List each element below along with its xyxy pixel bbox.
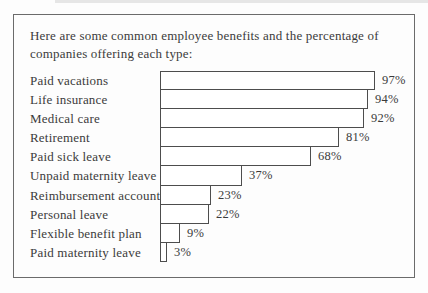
chart-row: Reimbursement accounts 23%	[14, 186, 414, 205]
bar	[160, 71, 375, 90]
value-label: 3%	[174, 243, 191, 262]
scan-edge-artifact	[55, 0, 428, 3]
value-label: 81%	[346, 128, 370, 147]
category-label: Paid maternity leave	[14, 243, 160, 262]
category-label: Unpaid maternity leave	[14, 166, 160, 185]
value-label: 23%	[218, 186, 242, 205]
chart-intro-text: Here are some common employee benefits a…	[30, 27, 396, 63]
bar	[160, 146, 311, 166]
chart-row: Retirement 81%	[14, 128, 414, 147]
bar	[160, 108, 364, 128]
value-label: 94%	[375, 90, 399, 109]
category-label: Life insurance	[14, 90, 160, 109]
value-label: 22%	[216, 205, 240, 224]
benefits-panel: Here are some common employee benefits a…	[13, 14, 415, 278]
category-label: Paid vacations	[14, 71, 160, 90]
chart-row: Life insurance 94%	[14, 90, 414, 109]
category-label: Personal leave	[14, 205, 160, 224]
chart-row: Personal leave 22%	[14, 205, 414, 224]
bar	[160, 89, 368, 109]
bar	[160, 127, 339, 147]
value-label: 97%	[382, 71, 406, 90]
value-label: 92%	[371, 109, 395, 128]
intro-line-1: Here are some common employee benefits a…	[30, 27, 396, 45]
category-label: Retirement	[14, 128, 160, 147]
bar	[160, 165, 242, 185]
category-label: Paid sick leave	[14, 147, 160, 166]
bar	[160, 204, 209, 224]
chart-row: Medical care 92%	[14, 109, 414, 128]
chart-row: Unpaid maternity leave 37%	[14, 166, 414, 185]
chart-row: Paid sick leave 68%	[14, 147, 414, 166]
category-label: Flexible benefit plan	[14, 224, 160, 243]
category-label: Medical care	[14, 109, 160, 128]
chart-row: Paid maternity leave 3%	[14, 243, 414, 262]
value-label: 37%	[249, 166, 273, 185]
bar	[160, 242, 167, 262]
bar	[160, 185, 211, 205]
value-label: 68%	[318, 147, 342, 166]
category-label: Reimbursement accounts	[14, 186, 160, 205]
intro-line-2: companies offering each type:	[30, 45, 396, 63]
value-label: 9%	[187, 224, 204, 243]
chart-row: Paid vacations 97%	[14, 71, 414, 90]
chart-row: Flexible benefit plan 9%	[14, 224, 414, 243]
bar	[160, 223, 180, 243]
bar-chart: Paid vacations 97% Life insurance 94% Me…	[14, 71, 414, 262]
